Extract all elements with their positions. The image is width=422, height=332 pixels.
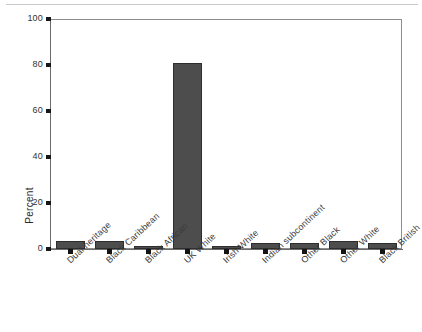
bar-slot (368, 19, 396, 249)
page-top-rule (6, 4, 418, 5)
bar-slot (173, 19, 201, 249)
y-axis-title: Percent (24, 171, 35, 241)
y-tick-label-100: 100 (27, 13, 43, 23)
bar-series (51, 19, 402, 249)
y-tick-label-60: 60 (33, 105, 43, 115)
bar (173, 63, 201, 249)
y-tick-label-0: 0 (38, 243, 43, 253)
y-tick-label-40: 40 (33, 151, 43, 161)
bar-slot (251, 19, 279, 249)
bar-slot (212, 19, 240, 249)
bar-slot (329, 19, 357, 249)
y-tick-label-80: 80 (33, 59, 43, 69)
bar-slot (56, 19, 84, 249)
bar-chart-figure: 020406080100 Percent Dual heritageBlack … (0, 0, 422, 332)
bar-slot (95, 19, 123, 249)
